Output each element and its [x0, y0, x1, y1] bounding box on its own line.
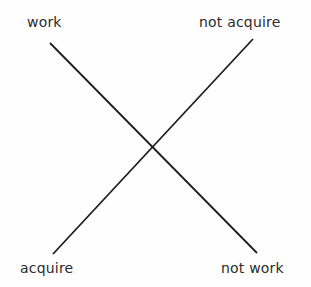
label-work: work — [27, 14, 62, 30]
label-acquire: acquire — [20, 260, 73, 276]
label-not-acquire: not acquire — [199, 14, 281, 30]
line-work-to-not-work — [50, 43, 257, 253]
cross-diagram: work not acquire acquire not work — [0, 0, 311, 287]
diagram-lines — [0, 0, 311, 287]
label-not-work: not work — [221, 260, 284, 276]
line-acquire-to-not-acquire — [53, 39, 253, 254]
